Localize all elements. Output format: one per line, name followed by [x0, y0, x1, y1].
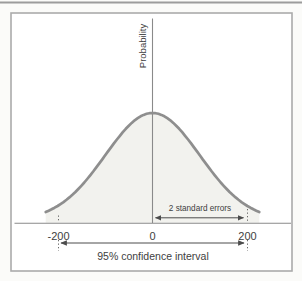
figure-canvas: Probability -200 0 200 2 standard errors… [0, 0, 302, 281]
y-axis-label: Probability [137, 24, 148, 69]
x-tick-label-pos200: 200 [238, 230, 256, 242]
x-tick-label-neg200: -200 [47, 230, 69, 242]
standard-errors-label: 2 standard errors [169, 204, 231, 213]
normal-distribution-figure: Probability -200 0 200 2 standard errors… [0, 0, 302, 281]
x-tick-label-zero: 0 [149, 230, 155, 242]
confidence-interval-label: 95% confidence interval [97, 250, 209, 262]
